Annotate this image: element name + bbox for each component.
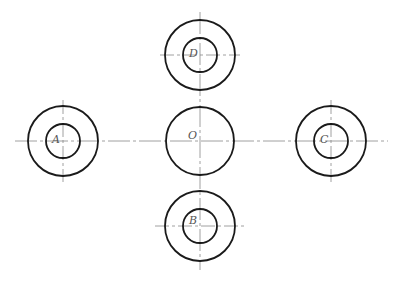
label-d: D <box>188 47 198 60</box>
diagram-canvas: D A O C B <box>0 0 399 281</box>
label-o: O <box>188 129 197 142</box>
label-b: B <box>188 214 197 227</box>
label-c: C <box>320 133 329 146</box>
label-a: A <box>51 133 60 146</box>
